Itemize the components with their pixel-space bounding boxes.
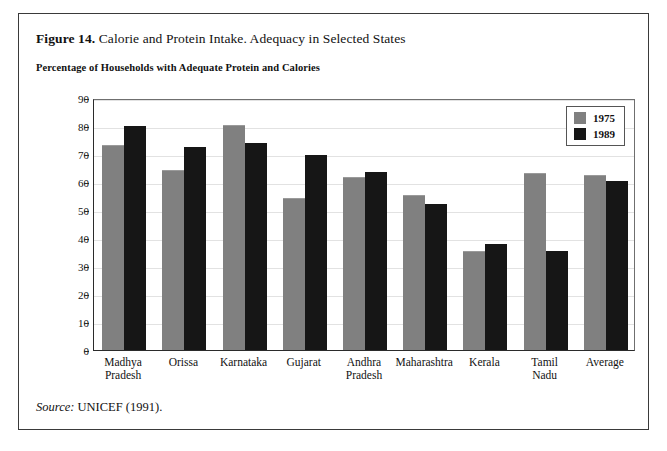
figure-title-text: Calorie and Protein Intake. Adequacy in … [99, 31, 406, 46]
x-axis-label-karnataka: Karnataka [213, 356, 273, 369]
gridline [94, 128, 634, 129]
bar-1989-madhya-pradesh [124, 126, 146, 350]
bar-1975-orissa [162, 170, 184, 350]
legend-swatch-1989 [574, 128, 586, 140]
gridline [94, 156, 634, 157]
bar-1989-kerala [485, 244, 507, 350]
bar-1989-andhra-pradesh [365, 172, 387, 350]
figure-number: Figure 14. [36, 31, 95, 46]
bar-1975-kerala [463, 251, 485, 350]
y-axis-tick-mark [84, 211, 89, 212]
plot-area: 19751989 [93, 99, 635, 351]
source-note: Source: UNICEF (1991). [36, 400, 162, 415]
bar-1989-orissa [184, 147, 206, 350]
x-axis-label-gujarat: Gujarat [274, 356, 334, 369]
legend-swatch-1975 [574, 112, 586, 124]
figure-title: Figure 14. Calorie and Protein Intake. A… [36, 31, 406, 47]
source-label: Source: [36, 400, 74, 414]
bar-1975-maharashtra [403, 195, 425, 350]
chart-plot-wrapper: 0102030405060708090 19751989 MadhyaPrade… [55, 86, 635, 376]
x-axis-label-madhya-pradesh: MadhyaPradesh [93, 356, 153, 382]
bar-1975-average [584, 175, 606, 350]
x-axis-label-maharashtra: Maharashtra [394, 356, 454, 369]
legend-item-1989: 1989 [574, 128, 615, 140]
y-axis-tick-mark [84, 155, 89, 156]
x-axis-label-kerala: Kerala [454, 356, 514, 369]
bar-1975-gujarat [283, 198, 305, 350]
bar-1989-karnataka [245, 143, 267, 350]
y-axis-tick-mark [84, 99, 89, 100]
legend-item-1975: 1975 [574, 112, 615, 124]
chart-legend: 19751989 [566, 106, 625, 146]
gridline [94, 100, 634, 101]
legend-label-1989: 1989 [593, 128, 615, 140]
y-axis-tick-mark [84, 351, 89, 352]
x-axis-label-average: Average [575, 356, 635, 369]
x-axis-label-tamil-nadu: TamilNadu [515, 356, 575, 382]
bar-1975-karnataka [223, 125, 245, 350]
bar-1989-gujarat [305, 155, 327, 350]
x-axis-label-orissa: Orissa [153, 356, 213, 369]
bar-1989-average [606, 181, 628, 350]
bar-1989-maharashtra [425, 204, 447, 350]
y-axis-tick-mark [84, 295, 89, 296]
bar-1975-tamil-nadu [524, 173, 546, 350]
chart-subtitle: Percentage of Households with Adequate P… [36, 62, 320, 73]
source-text: UNICEF (1991). [78, 400, 163, 414]
y-axis-tick-mark [84, 183, 89, 184]
bar-1975-andhra-pradesh [343, 177, 365, 350]
y-axis-tick-mark [84, 267, 89, 268]
legend-label-1975: 1975 [593, 112, 615, 124]
x-axis-label-andhra-pradesh: AndhraPradesh [334, 356, 394, 382]
x-axis-labels: MadhyaPradeshOrissaKarnatakaGujaratAndhr… [93, 354, 635, 388]
bar-1975-madhya-pradesh [102, 145, 124, 350]
y-axis-tick-mark [84, 127, 89, 128]
figure-frame: Figure 14. Calorie and Protein Intake. A… [18, 13, 649, 430]
y-axis-tick-mark [84, 239, 89, 240]
y-axis-tick-mark [84, 323, 89, 324]
bar-1989-tamil-nadu [546, 251, 568, 350]
y-axis-labels: 0102030405060708090 [55, 99, 89, 351]
